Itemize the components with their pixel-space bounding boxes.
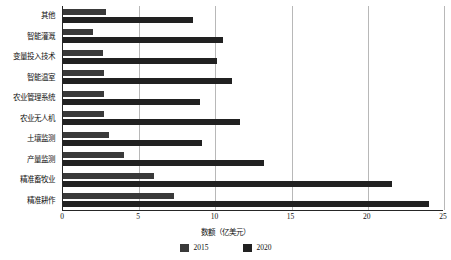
bar-2020: [63, 119, 240, 125]
bar-2015: [63, 9, 106, 15]
bar-row: [63, 129, 443, 150]
bar-row: [63, 68, 443, 89]
bar-2015: [63, 91, 104, 97]
plot-area: [62, 6, 443, 211]
category-label: 其他: [41, 6, 55, 27]
bar-2015: [63, 29, 93, 35]
x-tick-label: 20: [363, 212, 371, 221]
bar-row: [63, 6, 443, 27]
bar-chart: 其他智能灌溉变量投入技术智能温室农业管理系统农业无人机土壤监测产量监测精准畜牧业…: [0, 0, 451, 260]
x-tick-label: 5: [136, 212, 140, 221]
category-label: 农业管理系统: [13, 88, 55, 109]
legend-label: 2020: [257, 243, 272, 252]
bar-2020: [63, 201, 429, 207]
legend-swatch-icon: [243, 244, 252, 252]
x-tick-label: 15: [287, 212, 295, 221]
legend-label: 2015: [194, 243, 209, 252]
gridline: [444, 6, 445, 210]
category-label: 智能温室: [27, 68, 55, 89]
bar-2015: [63, 132, 109, 138]
bar-2015: [63, 70, 104, 76]
bar-2020: [63, 99, 200, 105]
x-tick-label: 0: [60, 212, 64, 221]
x-axis-tick-labels: 0510152025: [62, 212, 443, 224]
bar-2015: [63, 193, 174, 199]
category-label: 精准耕作: [27, 191, 55, 212]
legend-item[interactable]: 2020: [243, 243, 272, 252]
bar-2020: [63, 181, 392, 187]
legend-swatch-icon: [180, 244, 189, 252]
bar-2020: [63, 140, 202, 146]
bar-2015: [63, 152, 124, 158]
bar-row: [63, 27, 443, 48]
bar-2015: [63, 50, 103, 56]
bar-row: [63, 191, 443, 212]
bar-rows: [63, 6, 443, 210]
bar-2020: [63, 78, 232, 84]
bar-2020: [63, 37, 223, 43]
bar-2015: [63, 173, 154, 179]
bar-2020: [63, 58, 217, 64]
legend-item[interactable]: 2015: [180, 243, 209, 252]
category-label: 农业无人机: [20, 109, 55, 130]
category-label: 智能灌溉: [27, 27, 55, 48]
bar-row: [63, 150, 443, 171]
category-label: 精准畜牧业: [20, 170, 55, 191]
bar-2015: [63, 111, 104, 117]
category-label: 土壤监测: [27, 129, 55, 150]
bar-2020: [63, 160, 264, 166]
x-axis-title: 数额（亿美元）: [0, 226, 451, 237]
chart-legend: 20152020: [0, 243, 451, 252]
category-axis-labels: 其他智能灌溉变量投入技术智能温室农业管理系统农业无人机土壤监测产量监测精准畜牧业…: [0, 6, 58, 211]
bar-row: [63, 47, 443, 68]
bar-2020: [63, 17, 193, 23]
x-tick-label: 25: [439, 212, 447, 221]
x-tick-label: 10: [211, 212, 219, 221]
bar-row: [63, 109, 443, 130]
bar-row: [63, 88, 443, 109]
bar-row: [63, 170, 443, 191]
category-label: 变量投入技术: [13, 47, 55, 68]
category-label: 产量监测: [27, 150, 55, 171]
